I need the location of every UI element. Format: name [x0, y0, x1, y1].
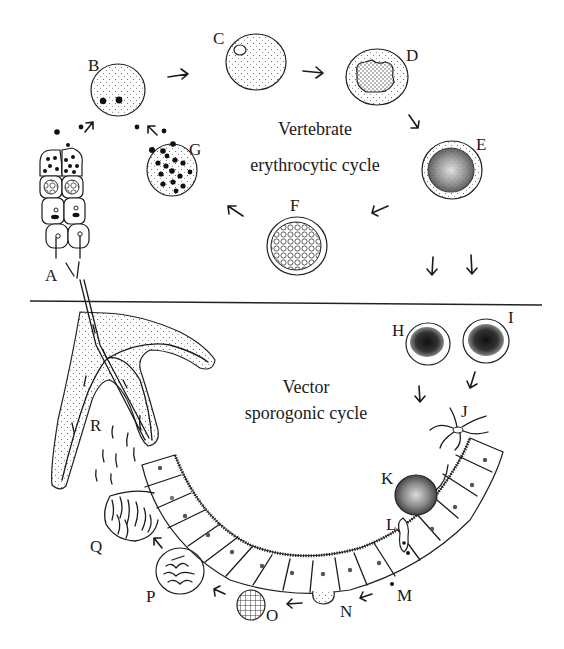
stage-e-schizont-early: E [422, 135, 486, 199]
stage-q-bursting-oocyst: Q [90, 491, 158, 556]
label-o: O [266, 606, 278, 625]
label-c: C [213, 29, 224, 48]
stage-j-exflagellation: J [430, 402, 488, 450]
stage-a-liver-cells: A [40, 143, 89, 285]
label-f: F [290, 196, 299, 215]
label-g: G [189, 140, 201, 159]
label-b: B [88, 56, 99, 75]
vector-cycle-title-line1: Vector [283, 377, 330, 397]
vector-cycle-title-line2: sporogonic cycle [245, 403, 367, 423]
label-e: E [476, 135, 486, 154]
stage-i-microgametocyte: I [463, 308, 514, 363]
vector-cycle: Vector sporogonic cycle R [52, 280, 514, 625]
label-k: K [381, 469, 394, 488]
label-r: R [90, 416, 102, 435]
label-i: I [508, 308, 514, 327]
stage-o-oocyst: O [237, 590, 278, 625]
label-q: Q [90, 537, 102, 556]
label-j: J [461, 402, 468, 421]
label-a: A [45, 266, 58, 285]
lifecycle-diagram: Vertebrate erythrocytic cycle [0, 0, 564, 649]
stage-k-zygote: K [381, 465, 448, 515]
stage-r-salivary-gland: R [52, 280, 215, 489]
stage-c-erythrocyte-ring: C [213, 29, 286, 90]
vertebrate-cycle-title-line1: Vertebrate [278, 119, 352, 139]
vertebrate-cycle: Vertebrate erythrocytic cycle [40, 29, 486, 285]
stage-f-schizont: F [267, 196, 327, 275]
label-h: H [392, 321, 404, 340]
stage-b-erythrocyte: B [88, 56, 145, 116]
label-l: L [386, 515, 396, 534]
label-d: D [406, 46, 418, 65]
stage-h-macrogametocyte: H [392, 321, 450, 365]
free-sporozoites [96, 416, 141, 484]
stage-n-young-oocyst: N [313, 591, 353, 621]
cycle-divider [30, 301, 542, 305]
stage-g-rupturing-schizont: G [147, 140, 201, 196]
stage-m-ookinete-basal: M [390, 582, 412, 605]
label-n: N [340, 602, 352, 621]
stage-d-trophozoite: D [346, 46, 418, 105]
label-p: P [146, 587, 155, 606]
stage-p-mature-oocyst: P [146, 548, 204, 606]
label-m: M [397, 586, 412, 605]
vertebrate-cycle-title-line2: erythrocytic cycle [250, 155, 379, 175]
